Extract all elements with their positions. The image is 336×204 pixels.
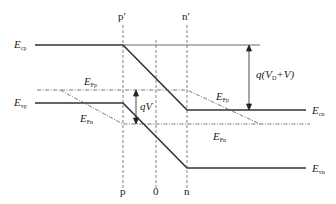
n-prime-label: n′ [182, 11, 190, 22]
evp-label: Evp [14, 97, 27, 109]
n-label: n [184, 186, 190, 197]
efn-right-label: EFn [213, 131, 226, 143]
evn-label: Evn [312, 163, 325, 175]
efp-left-label: EFp [84, 76, 97, 88]
barrier-height-arrow [247, 45, 252, 110]
efp-right-label: EFp [216, 91, 229, 103]
band-diagram-graphics [0, 0, 336, 204]
p-label: p [120, 186, 126, 197]
zero-label: 0 [153, 186, 159, 197]
ecn-label: Ecn [312, 105, 324, 117]
valence-band [35, 103, 306, 168]
p-prime-label: p′ [118, 11, 126, 22]
barrier-height-label: q(VD+V) [256, 69, 294, 81]
qV-arrow [134, 90, 139, 124]
qV-label: qV [140, 101, 152, 112]
ecp-label: Ecp [14, 39, 26, 51]
efn-left-label: EFn [80, 113, 93, 125]
pn-junction-band-diagram: p′ n′ p 0 n Ecp Evp EFp EFn EFp EFn Ecn … [0, 0, 336, 204]
